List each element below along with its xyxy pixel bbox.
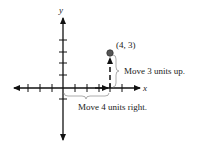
- vertical-brace: [113, 55, 119, 87]
- y-axis: y: [58, 5, 67, 140]
- y-axis-label: y: [58, 5, 63, 15]
- point-marker: [107, 50, 113, 56]
- point-label: (4, 3): [116, 40, 136, 50]
- x-axis: x: [14, 83, 147, 93]
- coordinate-plane: x y (4, 3) Move 3 units up. Move 4 units…: [0, 0, 197, 150]
- vertical-annotation: Move 3 units up.: [124, 66, 185, 76]
- horizontal-brace: [64, 93, 109, 99]
- x-axis-label: x: [142, 83, 147, 93]
- horizontal-annotation: Move 4 units right.: [78, 102, 147, 112]
